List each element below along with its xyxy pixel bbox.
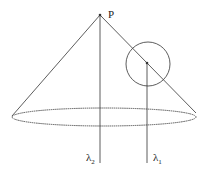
cone-right-edge <box>100 15 196 113</box>
lambda2-subscript: 2 <box>91 158 95 166</box>
lambda1-label: λ1 <box>153 152 162 166</box>
cone-base-ellipse <box>12 108 196 126</box>
cone-diagram: P λ2 λ1 <box>0 0 204 175</box>
apex-point <box>99 14 102 17</box>
circle-center-point <box>146 62 149 65</box>
lambda1-subscript: 1 <box>158 158 162 166</box>
cone-left-edge <box>12 15 100 116</box>
lambda2-label: λ2 <box>86 152 95 166</box>
cone-figure <box>0 0 204 175</box>
apex-label: P <box>108 9 114 20</box>
